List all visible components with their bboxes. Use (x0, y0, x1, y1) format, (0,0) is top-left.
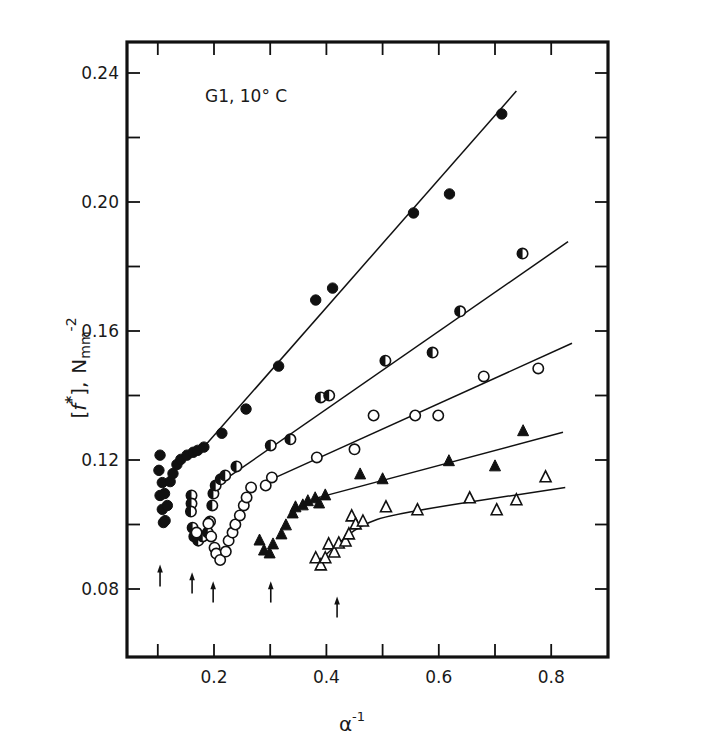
point-filled-circle (199, 442, 209, 452)
arrow-markers (157, 564, 340, 617)
y-title-unit: N (67, 359, 91, 374)
point-open-circle (241, 492, 251, 502)
point-filled-triangle (280, 519, 291, 530)
y-title-star: * (63, 396, 81, 404)
point-open-triangle (357, 515, 368, 526)
point-open-triangle (540, 471, 551, 482)
y-title-unit-sub: mm (77, 331, 93, 358)
x-tick-label: 0.4 (313, 667, 340, 687)
point-half-filled-circle (207, 500, 217, 510)
data-points (154, 109, 551, 570)
point-open-circle (410, 410, 420, 420)
y-title-unit-sup: -2 (63, 317, 79, 331)
point-filled-triangle (490, 460, 501, 471)
point-open-circle (221, 546, 231, 556)
point-filled-circle (444, 189, 454, 199)
point-filled-circle (273, 361, 283, 371)
arrow-head-icon (268, 581, 274, 589)
arrow-head-icon (189, 572, 195, 580)
arrow-head-icon (157, 564, 163, 572)
point-open-circle (206, 531, 216, 541)
y-title-bracket-open: [ (67, 411, 91, 419)
chart-canvas: 0.20.40.60.80.240.200.160.120.08 G1, 10°… (0, 0, 718, 753)
point-filled-triangle (518, 425, 529, 436)
point-half-filled-circle (427, 347, 437, 357)
arrow-head-icon (334, 596, 340, 604)
point-filled-circle (155, 450, 165, 460)
point-half-filled-circle (220, 470, 230, 480)
point-filled-triangle (355, 468, 366, 479)
point-filled-circle (311, 295, 321, 305)
point-open-triangle (464, 492, 475, 503)
point-open-circle (312, 452, 322, 462)
x-tick-label: 0.8 (538, 667, 565, 687)
point-half-filled-circle (380, 355, 390, 365)
point-open-circle (433, 410, 443, 420)
arrow-marker (189, 572, 195, 593)
point-half-filled-circle (285, 434, 295, 444)
point-open-triangle (380, 501, 391, 512)
fit-lines (204, 91, 572, 562)
x-axis-title: α-1 (339, 709, 365, 736)
chart-annotation: G1, 10° C (205, 86, 287, 106)
point-filled-circle (497, 109, 507, 119)
point-filled-triangle (377, 473, 388, 484)
point-open-circle (267, 472, 277, 482)
x-tick-label: 0.2 (200, 667, 227, 687)
arrow-marker (334, 596, 340, 617)
point-open-circle (246, 482, 256, 492)
point-open-circle (533, 363, 543, 373)
y-title-bracket-close: ], (67, 382, 91, 396)
point-filled-circle (160, 515, 170, 525)
x-tick-label: 0.6 (425, 667, 452, 687)
point-filled-circle (217, 428, 227, 438)
point-open-circle (235, 510, 245, 520)
point-half-filled-circle (266, 440, 276, 450)
y-tick-label: 0.12 (81, 450, 119, 470)
axis-ticks: 0.20.40.60.80.240.200.160.120.08 (81, 42, 608, 687)
point-open-triangle (323, 538, 334, 549)
point-filled-circle (408, 208, 418, 218)
point-open-circle (368, 410, 378, 420)
point-half-filled-circle (324, 390, 334, 400)
point-filled-circle (327, 283, 337, 293)
plot-border (127, 42, 608, 657)
point-filled-triangle (254, 534, 265, 545)
x-axis-title-sup: -1 (352, 709, 365, 724)
point-filled-triangle (268, 538, 279, 549)
x-axis-title-base: α (339, 712, 352, 736)
point-filled-circle (241, 404, 251, 414)
point-half-filled-circle (455, 306, 465, 316)
y-tick-label: 0.24 (81, 63, 119, 83)
point-filled-circle (162, 500, 172, 510)
point-half-filled-circle (517, 248, 527, 258)
point-open-circle (479, 371, 489, 381)
y-tick-label: 0.20 (81, 192, 119, 212)
chart-figure: 0.20.40.60.80.240.200.160.120.08 G1, 10°… (0, 0, 718, 753)
point-open-circle (349, 444, 359, 454)
y-tick-label: 0.08 (81, 579, 119, 599)
point-open-triangle (491, 504, 502, 515)
point-open-circle (191, 527, 201, 537)
point-open-circle (203, 518, 213, 528)
arrow-marker (268, 581, 274, 602)
point-filled-circle (154, 465, 164, 475)
point-half-filled-circle (186, 506, 196, 516)
arrow-marker (157, 564, 163, 586)
point-filled-circle (159, 488, 169, 498)
fit-line-filled-circles (204, 91, 516, 447)
point-half-filled-circle (231, 461, 241, 471)
point-filled-triangle (443, 455, 454, 466)
arrow-head-icon (210, 581, 216, 589)
arrow-marker (210, 581, 216, 602)
plot-frame (127, 42, 608, 657)
y-axis-title: [f*],Nmm-2 (63, 317, 93, 418)
